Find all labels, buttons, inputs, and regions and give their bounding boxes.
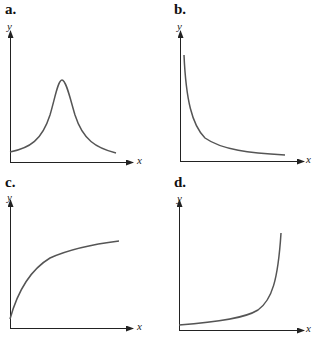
panel-a-curve <box>10 80 116 153</box>
panel-b-graph <box>180 31 304 162</box>
panel-d-curve <box>179 233 281 325</box>
graphs-canvas <box>0 0 314 339</box>
panel-c-graph <box>10 200 133 329</box>
panel-d-graph <box>179 200 304 331</box>
panel-b-curve <box>184 55 285 155</box>
panel-a-graph <box>10 31 133 163</box>
panel-c-curve <box>10 241 119 319</box>
